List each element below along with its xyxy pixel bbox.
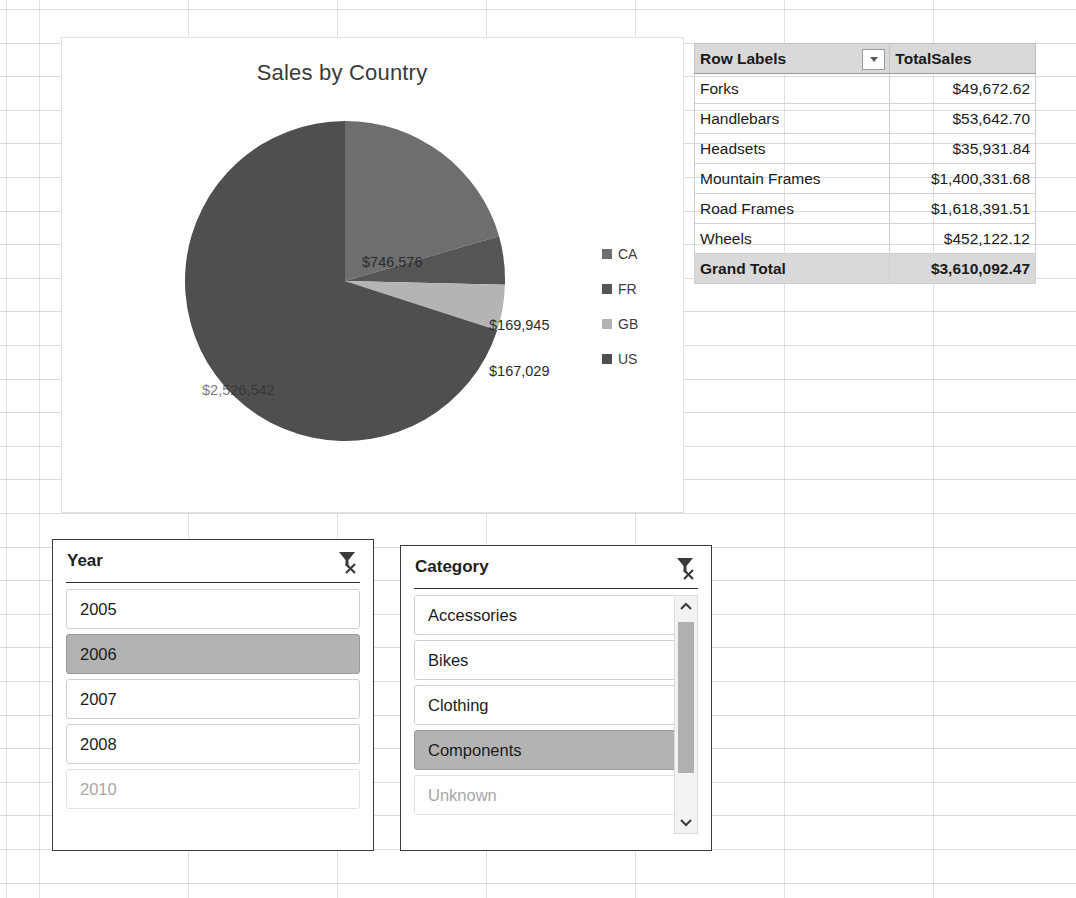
- legend-swatch-icon: [602, 249, 612, 259]
- chevron-down-icon[interactable]: [862, 49, 885, 70]
- legend-item-us[interactable]: US: [602, 341, 682, 376]
- slicer-scrollbar[interactable]: [674, 595, 698, 834]
- sales-by-country-chart[interactable]: Sales by Country $746,576 $169,945 $167,…: [61, 37, 684, 513]
- row-label: Forks: [695, 74, 890, 104]
- pivot-header-row: Row Labels TotalSales: [695, 44, 1036, 74]
- grand-total-label: Grand Total: [695, 254, 890, 284]
- row-label: Mountain Frames: [695, 164, 890, 194]
- pivot-header-row-labels[interactable]: Row Labels: [695, 44, 890, 74]
- table-row[interactable]: Mountain Frames $1,400,331.68: [695, 164, 1036, 194]
- row-value: $53,642.70: [890, 104, 1036, 134]
- row-value: $35,931.84: [890, 134, 1036, 164]
- clear-filter-icon[interactable]: [334, 548, 360, 574]
- table-row[interactable]: Forks $49,672.62: [695, 74, 1036, 104]
- slicer-year-body: 2005 2006 2007 2008 2010: [53, 589, 373, 809]
- pie-label-fr: $169,945: [489, 317, 549, 333]
- row-value: $1,618,391.51: [890, 194, 1036, 224]
- slicer-category-title: Category: [415, 557, 489, 577]
- legend-label: CA: [618, 246, 637, 262]
- table-row[interactable]: Wheels $452,122.12: [695, 224, 1036, 254]
- slicer-item-2010[interactable]: 2010: [66, 769, 360, 809]
- slicer-item-components[interactable]: Components: [414, 730, 680, 770]
- slicer-item-2006[interactable]: 2006: [66, 634, 360, 674]
- slicer-year-header: Year: [53, 540, 373, 582]
- table-row[interactable]: Handlebars $53,642.70: [695, 104, 1036, 134]
- grand-total-row[interactable]: Grand Total $3,610,092.47: [695, 254, 1036, 284]
- slicer-year-title: Year: [67, 551, 103, 571]
- legend-swatch-icon: [602, 319, 612, 329]
- slicer-category-list: Accessories Bikes Clothing Components Un…: [414, 595, 680, 815]
- chevron-up-icon[interactable]: [675, 596, 697, 618]
- slicer-item-2005[interactable]: 2005: [66, 589, 360, 629]
- pivot-header-total-sales[interactable]: TotalSales: [890, 44, 1036, 74]
- clear-filter-icon[interactable]: [672, 554, 698, 580]
- legend-swatch-icon: [602, 284, 612, 294]
- legend-label: US: [618, 351, 637, 367]
- slicer-item-clothing[interactable]: Clothing: [414, 685, 680, 725]
- pie-label-gb: $167,029: [489, 363, 549, 379]
- chart-legend: CA FR GB US: [602, 236, 682, 376]
- row-label: Road Frames: [695, 194, 890, 224]
- row-value: $49,672.62: [890, 74, 1036, 104]
- table-row[interactable]: Road Frames $1,618,391.51: [695, 194, 1036, 224]
- slicer-item-unknown[interactable]: Unknown: [414, 775, 680, 815]
- scrollbar-thumb[interactable]: [678, 622, 694, 773]
- slicer-year-rule: [66, 582, 360, 583]
- slicer-item-accessories[interactable]: Accessories: [414, 595, 680, 635]
- row-label: Wheels: [695, 224, 890, 254]
- legend-label: FR: [618, 281, 637, 297]
- row-value: $1,400,331.68: [890, 164, 1036, 194]
- slicer-year-list: 2005 2006 2007 2008 2010: [66, 589, 360, 809]
- grand-total-value: $3,610,092.47: [890, 254, 1036, 284]
- legend-label: GB: [618, 316, 638, 332]
- slicer-category-rule: [414, 588, 698, 589]
- slicer-item-2008[interactable]: 2008: [66, 724, 360, 764]
- row-label: Headsets: [695, 134, 890, 164]
- slicer-category-body: Accessories Bikes Clothing Components Un…: [401, 595, 711, 815]
- table-row[interactable]: Headsets $35,931.84: [695, 134, 1036, 164]
- row-label: Handlebars: [695, 104, 890, 134]
- caret-shape: [870, 57, 878, 62]
- chart-title: Sales by Country: [62, 60, 622, 86]
- legend-swatch-icon: [602, 354, 612, 364]
- slicer-year[interactable]: Year 2005 2006 2007 2008 2010: [52, 539, 374, 851]
- legend-item-ca[interactable]: CA: [602, 236, 682, 271]
- row-value: $452,122.12: [890, 224, 1036, 254]
- chevron-down-icon[interactable]: [675, 811, 697, 833]
- slicer-item-bikes[interactable]: Bikes: [414, 640, 680, 680]
- legend-item-fr[interactable]: FR: [602, 271, 682, 306]
- slicer-category-header: Category: [401, 546, 711, 588]
- pivot-header-row-labels-text: Row Labels: [700, 50, 786, 67]
- pivot-table[interactable]: Row Labels TotalSales Forks $49,672.62 H…: [694, 43, 1036, 284]
- slicer-item-2007[interactable]: 2007: [66, 679, 360, 719]
- slicer-category[interactable]: Category Accessories Bikes Clothing Comp…: [400, 545, 712, 851]
- pie-label-us: $2,526,542: [202, 382, 275, 398]
- legend-item-gb[interactable]: GB: [602, 306, 682, 341]
- pie-label-ca: $746,576: [362, 254, 422, 270]
